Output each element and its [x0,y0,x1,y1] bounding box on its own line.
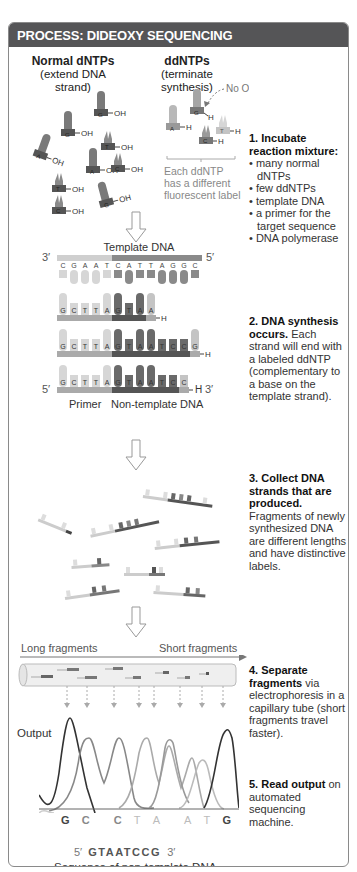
svg-text:H: H [161,314,167,323]
strand-3-prime: 3′ [205,383,213,395]
svg-text:G: G [170,262,175,269]
svg-text:A: A [138,307,143,314]
svg-text:A: A [105,307,110,314]
svg-text:A: A [160,262,165,269]
step-2: 2. DNA synthesis occurs. Each strand wil… [249,315,349,403]
template-5-prime: 5′ [206,251,214,263]
dideoxy-sequencing-panel: PROCESS: DIDEOXY SEQUENCING Normal dNTPs… [8,22,349,867]
sequence-5-prime: 5′ [74,846,82,858]
svg-text:T: T [94,379,99,386]
bullet: DNA polymerase [249,232,349,245]
svg-text:A: A [149,307,154,314]
svg-text:G: G [115,379,120,386]
template-dna-label: Template DNA [89,241,189,253]
bullet: template DNA [249,195,349,208]
svg-text:C: C [56,208,61,214]
step-3-body: Fragments of newly synthesized DNA are d… [249,510,346,572]
step-1: 1. Incubate reaction mixture: many norma… [249,132,349,245]
sequence-caption: Sequence of non-template DNA [54,861,216,867]
svg-text:C: C [181,379,186,386]
normal-dntps-title: Normal dNTPs [32,54,115,68]
svg-text:T: T [56,186,60,192]
primer-label: Primer [69,398,101,410]
chromatogram [39,713,239,813]
svg-text:OH: OH [114,109,126,118]
svg-text:T: T [83,343,88,350]
svg-text:A: A [138,379,143,386]
svg-text:T: T [138,262,143,269]
step-3: 3. Collect DNA strands that are produced… [249,472,349,572]
svg-text:OH: OH [51,156,66,169]
svg-text:T: T [127,379,132,386]
svg-text:G: G [60,307,65,314]
long-fragments-label: Long fragments [21,642,97,654]
svg-text:H: H [186,123,192,132]
svg-text:A: A [90,169,94,175]
step-2-number: 2. [249,315,258,327]
svg-text:OH: OH [121,143,133,152]
svg-text:OH: OH [72,185,84,194]
svg-text:H: H [218,137,224,146]
svg-text:G: G [194,110,199,116]
step-5-title: Read output [261,778,325,790]
ddntp-note: Each ddNTP has a different fluorescent l… [164,165,240,201]
ddntps-title: ddNTPs [164,54,209,68]
base-label: G [61,814,70,826]
svg-text:T: T [127,307,132,314]
svg-text:H: H [208,113,214,122]
sequence-3-prime: 3′ [167,846,175,858]
svg-text:C: C [60,262,65,269]
bullet: many normal dNTPs [249,157,349,182]
svg-text:C: C [115,262,120,269]
svg-text:G: G [192,343,197,350]
svg-text:C: C [170,379,175,386]
svg-text:A: A [36,153,42,160]
svg-text:H: H [235,127,241,136]
svg-text:C: C [71,343,76,350]
svg-text:A: A [149,343,154,350]
svg-text:C: C [170,343,175,350]
short-fragments-label: Short fragments [159,642,237,654]
svg-text:OH: OH [81,129,93,138]
svg-text:OH: OH [118,193,132,205]
step-4-number: 4. [249,664,258,676]
svg-text:G: G [71,262,76,269]
svg-text:C: C [192,262,197,269]
svg-text:A: A [127,262,132,269]
no-oh-label: No OH [226,83,249,94]
svg-text:G: G [98,112,103,118]
step-1-title: Incubate reaction mixture: [249,132,338,157]
base-label: C [114,814,122,826]
svg-text:T: T [149,262,154,269]
svg-text:T: T [83,307,88,314]
step-5-number: 5. [249,778,258,790]
svg-text:A: A [94,262,99,269]
svg-text:G: G [60,343,65,350]
base-label: A [184,814,191,826]
svg-text:OH: OH [72,207,84,216]
down-arrow-icon [124,606,148,638]
step-3-title: Collect DNA strands that are produced. [249,472,332,509]
bullet: a primer for the target sequence [249,207,349,232]
svg-text:A: A [83,262,88,269]
base-label: G [222,814,231,826]
svg-text:T: T [160,343,165,350]
svg-text:T: T [83,379,88,386]
svg-text:T: T [220,128,224,134]
arrow-right-icon [239,655,247,661]
svg-text:C: C [203,138,208,144]
svg-text:T: T [160,379,165,386]
svg-text:T: T [94,307,99,314]
svg-text:A: A [149,379,154,386]
svg-text:G: G [115,343,120,350]
step-4: 4. Separate fragments via electrophoresi… [249,664,349,739]
strand-5-prime: 5′ [42,383,50,395]
svg-text:G: G [60,379,65,386]
base-label: T [204,814,211,826]
svg-text:A: A [138,343,143,350]
svg-text:G: G [65,132,70,138]
base-label: T [134,814,141,826]
svg-text:OH: OH [131,165,143,174]
svg-text:G: G [115,307,120,314]
step-4-title: Separate fragments [249,664,308,689]
